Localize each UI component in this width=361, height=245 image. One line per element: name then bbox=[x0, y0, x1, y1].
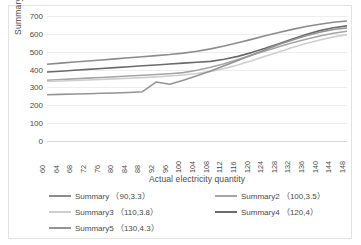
legend-item-summary3[interactable]: Summary3 （110,3.8） bbox=[49, 205, 158, 218]
series-line-summary bbox=[47, 21, 347, 64]
legend-label: Summary （90,3.3） bbox=[75, 190, 150, 201]
y-tick-300: 300 bbox=[9, 83, 43, 92]
y-tick-600: 600 bbox=[9, 29, 43, 38]
y-tick-500: 500 bbox=[9, 47, 43, 56]
x-tick-label: 84 bbox=[120, 165, 129, 173]
legend-item-summary2[interactable]: Summary2 （100,3.5） bbox=[215, 189, 325, 202]
legend-label: Summary3 （110,3.8） bbox=[75, 206, 158, 217]
series-line-summary3 bbox=[47, 35, 347, 82]
x-tick-label: 116 bbox=[229, 162, 238, 173]
legend-swatch-icon bbox=[49, 195, 71, 197]
legend-item-summary5[interactable]: Summary5 （130,4.3） bbox=[49, 221, 159, 234]
legend-swatch-icon bbox=[215, 211, 237, 213]
y-tick-0: 0 bbox=[9, 137, 43, 146]
x-tick-label: 104 bbox=[188, 161, 197, 173]
gridline bbox=[47, 141, 347, 142]
y-axis-tick-labels: 0100200300400500600700 bbox=[9, 16, 43, 141]
x-tick-label: 120 bbox=[243, 161, 252, 173]
plot-area bbox=[47, 16, 347, 141]
legend-swatch-icon bbox=[49, 227, 71, 229]
x-axis-title: Actual electricity quantity bbox=[47, 174, 347, 184]
x-axis-tick-labels: 6064687276808488929610010410811211612012… bbox=[47, 143, 347, 175]
x-tick-label: 124 bbox=[256, 161, 265, 173]
x-tick-label: 112 bbox=[215, 162, 224, 173]
x-tick-label: 68 bbox=[65, 165, 74, 173]
x-tick-label: 60 bbox=[38, 165, 47, 173]
x-tick-label: 148 bbox=[338, 161, 347, 173]
x-tick-label: 140 bbox=[311, 161, 320, 173]
y-tick-700: 700 bbox=[9, 12, 43, 21]
legend-swatch-icon bbox=[215, 195, 237, 197]
x-tick-label: 136 bbox=[297, 161, 306, 173]
x-tick-label: 72 bbox=[79, 165, 88, 173]
legend-swatch-icon bbox=[49, 211, 71, 213]
chart-card: Summary 0100200300400500600700 606468727… bbox=[8, 5, 352, 239]
x-tick-label: 108 bbox=[202, 161, 211, 173]
x-tick-label: 88 bbox=[133, 165, 142, 173]
y-tick-200: 200 bbox=[9, 101, 43, 110]
chart-legend: Summary （90,3.3）Summary2 （100,3.5）Summar… bbox=[29, 189, 349, 237]
legend-label: Summary4 （120,4） bbox=[241, 206, 318, 217]
x-tick-label: 96 bbox=[161, 165, 170, 173]
x-tick-label: 80 bbox=[106, 165, 115, 173]
plot-area-wrapper: Summary 0100200300400500600700 bbox=[9, 6, 353, 151]
x-tick-label: 132 bbox=[283, 161, 292, 173]
legend-item-summary[interactable]: Summary （90,3.3） bbox=[49, 189, 150, 202]
x-tick-label: 92 bbox=[147, 165, 156, 173]
legend-label: Summary5 （130,4.3） bbox=[75, 222, 159, 233]
x-tick-label: 144 bbox=[324, 161, 333, 173]
y-tick-400: 400 bbox=[9, 65, 43, 74]
x-tick-label: 100 bbox=[174, 161, 183, 173]
y-tick-100: 100 bbox=[9, 119, 43, 128]
series-lines bbox=[47, 16, 347, 141]
x-tick-label: 76 bbox=[93, 165, 102, 173]
legend-label: Summary2 （100,3.5） bbox=[241, 190, 325, 201]
x-tick-label: 128 bbox=[270, 161, 279, 173]
legend-item-summary4[interactable]: Summary4 （120,4） bbox=[215, 205, 318, 218]
series-line-summary4 bbox=[47, 26, 347, 72]
x-tick-label: 64 bbox=[52, 165, 61, 173]
